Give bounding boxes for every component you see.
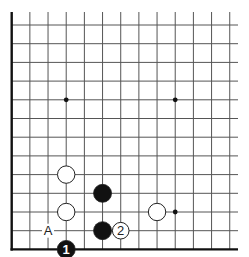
white-stone: [58, 203, 75, 220]
star-point-icon: [173, 210, 178, 215]
black-stone: [94, 184, 112, 202]
black-stone: [94, 222, 112, 240]
move-number-label: 1: [63, 242, 70, 257]
white-stone: [58, 166, 75, 183]
move-number-label: 2: [117, 223, 124, 238]
board-markers: A: [42, 223, 54, 238]
marker-label: A: [44, 223, 53, 238]
star-point-icon: [64, 97, 69, 102]
white-stone: 2: [112, 222, 129, 239]
star-point-icon: [173, 97, 178, 102]
black-stone: 1: [57, 240, 75, 257]
go-board: A 21: [0, 0, 249, 257]
board-stones: 21: [57, 166, 166, 257]
board-grid: [11, 12, 239, 251]
white-stone: [148, 203, 165, 220]
